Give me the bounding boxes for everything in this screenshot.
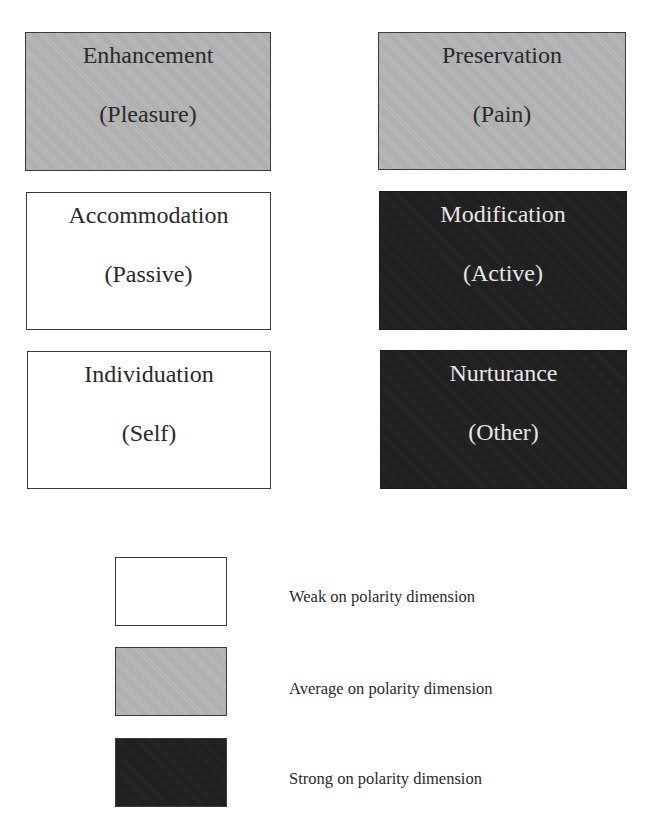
box-preservation: Preservation (Pain) [378, 32, 626, 170]
legend-swatch-weak [115, 557, 227, 626]
legend-swatch-strong [115, 738, 227, 807]
box-subtitle: (Self) [28, 419, 270, 447]
box-subtitle: (Passive) [27, 260, 270, 288]
box-title: Enhancement [26, 41, 270, 69]
box-subtitle: (Active) [380, 259, 626, 287]
box-individuation: Individuation (Self) [27, 351, 271, 489]
box-title: Individuation [28, 360, 270, 388]
box-subtitle: (Other) [381, 418, 626, 446]
box-subtitle: (Pleasure) [26, 100, 270, 128]
box-modification: Modification (Active) [379, 191, 627, 330]
box-accommodation: Accommodation (Passive) [26, 192, 271, 330]
box-title: Modification [380, 200, 626, 228]
box-nurturance: Nurturance (Other) [380, 350, 627, 489]
box-title: Nurturance [381, 359, 626, 387]
box-enhancement: Enhancement (Pleasure) [25, 32, 271, 171]
legend-label-average: Average on polarity dimension [289, 679, 493, 699]
box-subtitle: (Pain) [379, 100, 625, 128]
legend-swatch-average [115, 647, 227, 716]
box-title: Accommodation [27, 201, 270, 229]
box-title: Preservation [379, 41, 625, 69]
legend-label-strong: Strong on polarity dimension [289, 769, 482, 789]
legend-label-weak: Weak on polarity dimension [289, 587, 475, 607]
